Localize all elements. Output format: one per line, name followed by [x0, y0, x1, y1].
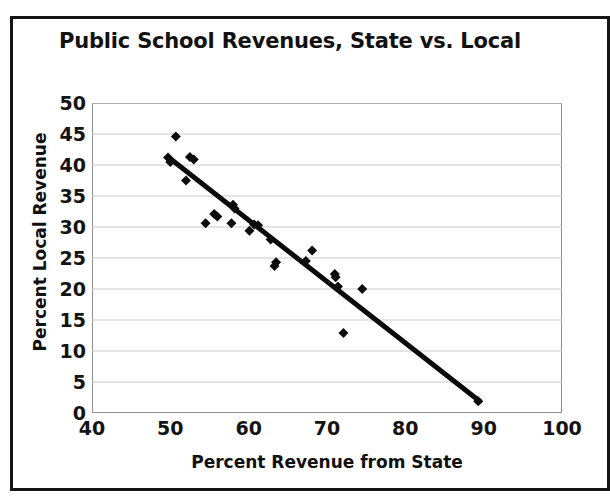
plot-canvas — [92, 103, 562, 413]
x-axis-ticks: 405060708090100 — [0, 419, 588, 447]
gridlines — [92, 103, 562, 382]
trendline — [169, 158, 480, 402]
y-tick-label: 50 — [40, 94, 86, 113]
y-tick-label: 5 — [40, 373, 86, 392]
x-tick-label: 100 — [532, 419, 592, 438]
data-point — [357, 284, 367, 294]
x-axis-title: Percent Revenue from State — [92, 452, 562, 472]
data-point — [338, 328, 348, 338]
data-point — [307, 246, 317, 256]
x-tick-label: 80 — [375, 419, 435, 438]
y-axis-title: Percent Local Revenue — [30, 117, 50, 367]
chart-title: Public School Revenues, State vs. Local — [30, 29, 550, 53]
data-point — [171, 131, 181, 141]
data-point — [181, 176, 191, 186]
x-tick-label: 90 — [454, 419, 514, 438]
x-tick-label: 60 — [219, 419, 279, 438]
x-tick-label: 70 — [297, 419, 357, 438]
x-tick-label: 40 — [62, 419, 122, 438]
x-tick-label: 50 — [140, 419, 200, 438]
